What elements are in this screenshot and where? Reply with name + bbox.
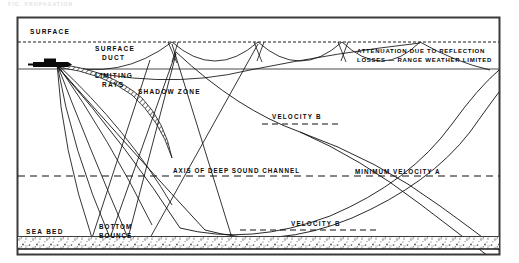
label-velocity-b-upper: VELOCITY B (272, 113, 322, 120)
label-velocity-b-lower: VELOCITY B (291, 220, 341, 227)
submarine-source-icon (28, 59, 72, 68)
surface-reflection-ticks (168, 42, 348, 63)
label-shadow-zone: SHADOW ZONE (138, 88, 201, 96)
label-attenuation-line1: ATTENUATION DUE TO REFLECTION (357, 48, 485, 55)
label-bottom-bounce-line2: BOUNCE (99, 232, 132, 239)
label-minimum-velocity-a: MINIMUM VELOCITY A (355, 168, 441, 175)
label-limiting-rays-line1: LIMITING (95, 72, 133, 80)
label-surface: SURFACE (30, 28, 70, 36)
label-bottom-bounce-line1: BOTTOM (99, 223, 132, 230)
propagation-diagram-figure: FIG. PROPAGATION (0, 0, 519, 263)
duct-ray-arc-3 (258, 42, 342, 61)
label-axis-deep-sound-channel: AXIS OF DEEP SOUND CHANNEL (173, 167, 300, 174)
label-surface-duct-line2: DUCT (102, 54, 125, 62)
duct-ray-arc-2 (172, 42, 258, 61)
dsc-ray-inner (57, 66, 499, 238)
bottom-bounce-down-1 (172, 44, 232, 238)
label-sea-bed: SEA BED (26, 228, 64, 236)
bottom-bounce-up-2 (110, 52, 176, 238)
label-attenuation-line2: LOSSES — RANGE WEATHER LIMITED (357, 57, 492, 64)
sea-bed-stipple (18, 236, 499, 249)
label-surface-duct-line1: SURFACE (95, 45, 135, 53)
ray-fan-3 (57, 64, 128, 238)
dsc-ray-outer (57, 66, 499, 235)
label-limiting-rays-line2: RAYS (102, 81, 124, 89)
duct-ray-arc-5 (420, 42, 490, 70)
diagram-canvas (0, 0, 519, 263)
